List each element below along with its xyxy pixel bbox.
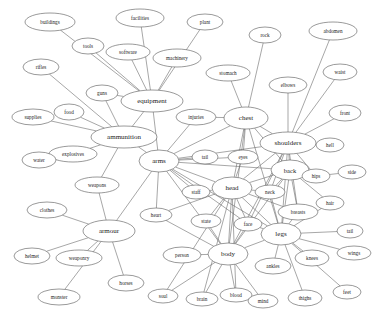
graph-node-buildings[interactable]: buildings (25, 13, 75, 31)
node-outline (187, 14, 223, 30)
graph-node-equipment[interactable]: equipment (121, 90, 183, 112)
node-outline (116, 9, 164, 27)
node-outline (140, 208, 172, 222)
graph-node-body[interactable]: body (208, 243, 248, 265)
node-outline (12, 109, 54, 125)
node-outline (139, 150, 179, 172)
graph-node-plant[interactable]: plant (187, 14, 223, 30)
node-outline (206, 65, 250, 81)
graph-node-arms[interactable]: arms (139, 150, 179, 172)
graph-node-breasts[interactable]: breasts (278, 204, 318, 220)
graph-node-state[interactable]: state (191, 214, 221, 228)
graph-node-mind[interactable]: mind (248, 294, 278, 308)
graph-node-staff[interactable]: staff (182, 185, 210, 199)
graph-node-blood[interactable]: blood (220, 288, 252, 302)
graph-node-heart[interactable]: heart (140, 208, 172, 222)
graph-edge (141, 27, 150, 90)
graph-node-soul[interactable]: soul (148, 289, 178, 303)
graph-edge (230, 265, 235, 288)
node-outline (108, 275, 144, 291)
graph-node-chest[interactable]: chest (224, 107, 268, 129)
graph-edge (229, 199, 232, 243)
graph-node-tail[interactable]: tail (192, 150, 218, 164)
graph-node-waist[interactable]: waist (323, 64, 357, 80)
graph-edge (90, 145, 101, 149)
graph-node-thighs[interactable]: thighs (288, 290, 322, 306)
graph-node-ammunition[interactable]: ammunition (91, 126, 157, 148)
graph-node-stomach[interactable]: stomach (206, 65, 250, 81)
node-outline (260, 132, 316, 154)
graph-edge (260, 126, 272, 133)
node-outline (121, 90, 183, 112)
node-outline (288, 290, 322, 306)
graph-edge (106, 101, 119, 126)
graph-node-supplies[interactable]: supplies (12, 109, 54, 125)
graph-node-weapons[interactable]: weapons (75, 177, 119, 193)
graph-edge (87, 241, 98, 251)
node-outline (153, 49, 201, 67)
graph-node-weaponry[interactable]: weaponry (56, 250, 102, 266)
node-outline (329, 105, 361, 121)
graph-node-ankles[interactable]: ankles (255, 258, 291, 274)
graph-edge (61, 30, 140, 91)
node-outline (338, 165, 366, 179)
node-outline (27, 202, 67, 218)
graph-node-feet[interactable]: feet (333, 285, 361, 299)
graph-edge (330, 174, 339, 175)
graph-node-neck[interactable]: neck (255, 185, 285, 199)
node-outline (176, 109, 216, 125)
graph-node-knees[interactable]: knees (295, 250, 329, 266)
graph-node-person[interactable]: person (163, 247, 201, 263)
node-outline (228, 150, 258, 164)
node-outline (249, 27, 281, 43)
graph-node-rifles[interactable]: rifles (23, 59, 59, 75)
graph-node-monster[interactable]: monster (38, 289, 80, 305)
graph-node-shoulders[interactable]: shoulders (260, 132, 316, 154)
graph-node-face[interactable]: face (234, 217, 262, 231)
graph-node-abdomen[interactable]: abdomen (309, 22, 357, 40)
node-outline (212, 177, 252, 199)
graph-edge (249, 43, 264, 107)
graph-node-software[interactable]: software (106, 44, 150, 60)
graph-edge (292, 180, 297, 204)
node-outline (323, 64, 357, 80)
graph-edge (275, 245, 278, 258)
graph-node-tail2[interactable]: tail (337, 224, 363, 238)
graph-node-armour[interactable]: armour (83, 220, 135, 242)
graph-node-water[interactable]: water (22, 152, 56, 168)
graph-node-legs[interactable]: legs (261, 223, 301, 245)
graph-node-front[interactable]: front (329, 105, 361, 121)
graph-node-facilities[interactable]: facilities (116, 9, 164, 27)
graph-node-wings[interactable]: wings (337, 246, 371, 260)
graph-node-head[interactable]: head (212, 177, 252, 199)
graph-edge (47, 238, 89, 252)
graph-node-side[interactable]: side (338, 165, 366, 179)
graph-node-elbows[interactable]: elbows (269, 77, 307, 93)
graph-node-machinery[interactable]: machinery (153, 49, 201, 67)
node-outline (83, 220, 135, 242)
node-outline (106, 44, 150, 60)
graph-edge (244, 240, 264, 248)
graph-node-hell[interactable]: hell (316, 138, 344, 152)
graph-node-guns[interactable]: guns (86, 85, 118, 101)
graph-node-injuries[interactable]: injuries (176, 109, 216, 125)
graph-node-eyes[interactable]: eyes (228, 150, 258, 164)
graph-node-hips[interactable]: hips (302, 169, 330, 183)
graph-edge (113, 242, 124, 275)
node-outline (163, 247, 201, 263)
node-outline (278, 204, 318, 220)
graph-node-food[interactable]: food (54, 104, 84, 120)
graph-node-rock[interactable]: rock (249, 27, 281, 43)
graph-node-horses[interactable]: horses (108, 275, 144, 291)
graph-node-tools[interactable]: tools (72, 38, 104, 54)
graph-node-brain[interactable]: brain (186, 292, 218, 306)
node-outline (261, 223, 301, 245)
node-outline (186, 292, 218, 306)
graph-edge (51, 121, 96, 131)
graph-edge (132, 112, 143, 127)
graph-node-hair[interactable]: hair (316, 196, 344, 210)
node-outline (75, 177, 119, 193)
graph-node-helmet[interactable]: helmet (14, 248, 50, 264)
graph-node-clothes[interactable]: clothes (27, 202, 67, 218)
graph-edge (289, 220, 292, 224)
